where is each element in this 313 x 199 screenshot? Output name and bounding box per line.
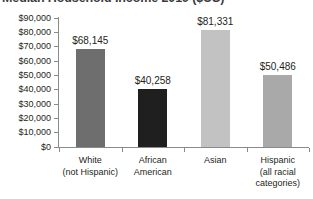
y-axis-tick-label: $70,000 <box>18 41 51 52</box>
x-axis-tick-mark <box>122 148 123 152</box>
y-axis-tick: $40,000 <box>0 84 59 95</box>
y-axis-tick-mark <box>54 118 59 119</box>
y-axis-tick: $60,000 <box>0 56 59 67</box>
y-axis-tick: $10,000 <box>0 127 59 138</box>
y-axis-tick-label: $80,000 <box>18 27 51 38</box>
chart-title: Median Household Income 2019 ($US) <box>2 0 311 7</box>
bar-value-label: $68,145 <box>59 35 121 47</box>
y-axis-tick: $0 <box>0 142 59 153</box>
bar <box>76 49 105 147</box>
y-axis-tick-mark <box>54 18 59 19</box>
y-axis-tick-mark <box>54 89 59 90</box>
y-axis-tick-mark <box>54 32 59 33</box>
y-axis-tick: $20,000 <box>0 113 59 124</box>
x-axis-tick-mark <box>59 148 60 152</box>
x-axis-tick-mark <box>184 148 185 152</box>
bar-chart: Median Household Income 2019 ($US) $90,0… <box>0 0 313 199</box>
bar-value-label: $40,258 <box>122 75 184 87</box>
x-axis-category-label: Hispanic(all racialcategories) <box>240 155 313 190</box>
y-axis-tick-mark <box>54 104 59 105</box>
y-axis-tick-label: $20,000 <box>18 113 51 124</box>
bar <box>138 89 167 147</box>
bar <box>263 75 292 147</box>
y-axis-tick: $80,000 <box>0 27 59 38</box>
y-axis-tick-label: $10,000 <box>18 127 51 138</box>
y-axis-tick-mark <box>54 46 59 47</box>
x-axis-tick-mark <box>309 148 310 152</box>
y-axis-tick: $30,000 <box>0 99 59 110</box>
bar-value-label: $50,486 <box>247 61 309 73</box>
x-axis-category-label-line: (all racial <box>240 167 313 179</box>
y-axis-tick-label: $50,000 <box>18 70 51 81</box>
y-axis-tick-label: $30,000 <box>18 99 51 110</box>
x-axis-tick-mark <box>247 148 248 152</box>
bar <box>201 30 230 147</box>
y-axis-tick: $90,000 <box>0 13 59 24</box>
y-axis-tick-label: $0 <box>41 142 51 153</box>
y-axis-tick-mark <box>54 61 59 62</box>
y-axis-tick-label: $90,000 <box>18 13 51 24</box>
bar-value-label: $81,331 <box>184 16 246 28</box>
y-axis-tick-label: $40,000 <box>18 84 51 95</box>
x-axis-category-label-line: categories) <box>240 178 313 190</box>
y-axis-tick-mark <box>54 75 59 76</box>
y-axis-tick-mark <box>54 132 59 133</box>
x-axis-category-label-line: American <box>115 167 191 179</box>
y-axis-tick: $70,000 <box>0 41 59 52</box>
x-axis-category-label-line: Hispanic <box>240 155 313 167</box>
y-axis-tick-label: $60,000 <box>18 56 51 67</box>
y-axis-tick: $50,000 <box>0 70 59 81</box>
